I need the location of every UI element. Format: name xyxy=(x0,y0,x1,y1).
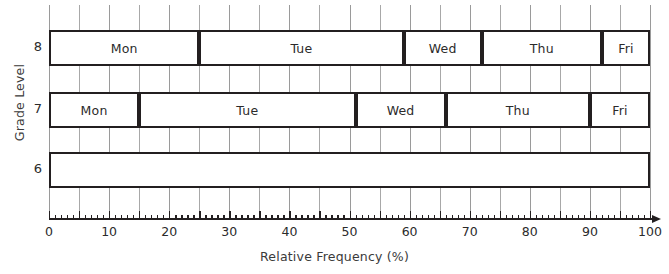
gridline xyxy=(650,5,651,218)
y-axis-tick-label: 6 xyxy=(26,161,42,176)
x-axis-tick-labels: 0102030405060708090100 xyxy=(49,0,650,274)
x-axis-tick-label: 100 xyxy=(638,224,662,239)
x-axis-tick-label: 60 xyxy=(402,224,418,239)
y-axis-tick-label: 7 xyxy=(26,101,42,116)
x-axis-title: Relative Frequency (%) xyxy=(0,249,669,264)
x-axis-tick-label: 10 xyxy=(101,224,117,239)
x-axis-tick-label: 70 xyxy=(462,224,478,239)
x-axis-tick-label: 0 xyxy=(45,224,53,239)
x-axis-tick-label: 40 xyxy=(281,224,297,239)
y-axis-tick-label: 8 xyxy=(26,39,42,54)
x-axis-major-tick xyxy=(650,211,651,220)
x-axis-tick-label: 80 xyxy=(522,224,538,239)
x-axis-tick-label: 90 xyxy=(582,224,598,239)
stacked-bar-chart: Grade Level MonTueWedThuFriMonTueWedThuF… xyxy=(0,0,669,274)
x-axis-arrow-icon xyxy=(652,215,661,223)
x-axis-tick-label: 50 xyxy=(342,224,358,239)
y-axis-title: Grade Level xyxy=(12,48,27,158)
x-axis-tick-label: 30 xyxy=(221,224,237,239)
x-axis-tick-label: 20 xyxy=(161,224,177,239)
